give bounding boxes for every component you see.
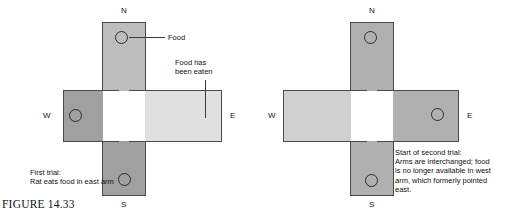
food-pellet-south [365,174,378,187]
food-pellet-east [431,108,444,121]
food-eaten-leader-line [205,80,206,118]
maze-center-seam-bottom [352,129,392,132]
compass-label-north: N [121,6,127,15]
compass-label-east: E [467,111,472,120]
panel-second-trial: N S W E Start of second trial: Arms are … [259,0,518,216]
compass-label-east: E [230,111,235,120]
food-pellet-south [118,173,131,186]
second-trial-caption: Start of second trial: Arms are intercha… [395,148,513,194]
food-pellet-north [364,31,377,44]
food-leader-line [129,37,165,38]
food-pellet-west [69,109,82,122]
food-pellet-north [115,31,128,44]
figure-14-33: N S W E Food Food has been eaten First t… [0,0,518,216]
compass-label-south: S [121,200,126,209]
food-label: Food [168,33,185,42]
food-eaten-label: Food has been eaten [175,58,247,76]
maze-center-seam-bottom [104,129,144,132]
maze-center-seam-top [352,99,392,102]
maze-center-seam-top [104,99,144,102]
panel-first-trial: N S W E Food Food has been eaten First t… [0,0,259,216]
compass-label-west: W [268,111,276,120]
compass-label-south: S [369,200,374,209]
compass-label-north: N [369,6,375,15]
compass-label-west: W [43,111,51,120]
figure-caption: FIGURE 14.33 [2,198,75,211]
